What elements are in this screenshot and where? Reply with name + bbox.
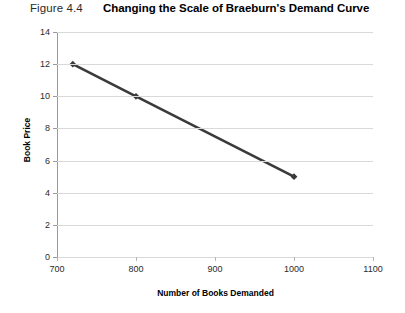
- y-tick-mark: [53, 225, 57, 226]
- x-tick-mark: [373, 257, 374, 261]
- y-axis-title: Book Price: [22, 95, 32, 185]
- y-tick-mark: [53, 161, 57, 162]
- y-tick-label: 0: [45, 252, 50, 262]
- x-tick-label: 1100: [363, 264, 382, 274]
- gridline-horizontal: [57, 32, 373, 33]
- figure-container: Figure 4.4 Changing the Scale of Braebur…: [0, 0, 405, 313]
- x-axis-title: Number of Books Demanded: [57, 288, 374, 298]
- gridline-horizontal: [57, 96, 373, 97]
- y-tick-mark: [53, 96, 57, 97]
- y-tick-label: 2: [45, 220, 50, 230]
- y-tick-label: 6: [45, 156, 50, 166]
- figure-header: Figure 4.4 Changing the Scale of Braebur…: [0, 2, 405, 20]
- x-tick-mark: [215, 257, 216, 261]
- gridline-horizontal: [57, 64, 373, 65]
- y-tick-label: 12: [40, 59, 50, 69]
- x-tick-label: 1000: [284, 264, 304, 274]
- gridline-horizontal: [57, 161, 373, 162]
- x-tick-mark: [294, 257, 295, 261]
- chart-title: Changing the Scale of Braeburn's Demand …: [103, 2, 369, 14]
- x-tick-label: 800: [128, 264, 143, 274]
- y-tick-mark: [53, 128, 57, 129]
- plot-area: 0246810121470080090010001100: [57, 32, 373, 257]
- x-tick-label: 700: [49, 264, 64, 274]
- gridline-horizontal: [57, 193, 373, 194]
- gridline-horizontal: [57, 225, 373, 226]
- y-tick-mark: [53, 32, 57, 33]
- y-tick-mark: [53, 64, 57, 65]
- x-tick-mark: [57, 257, 58, 261]
- y-tick-mark: [53, 193, 57, 194]
- y-tick-label: 10: [40, 91, 50, 101]
- y-tick-label: 8: [45, 123, 50, 133]
- gridline-horizontal: [57, 128, 373, 129]
- figure-number-label: Figure 4.4: [30, 2, 83, 14]
- y-tick-label: 14: [40, 27, 50, 37]
- x-tick-mark: [136, 257, 137, 261]
- y-tick-label: 4: [45, 188, 50, 198]
- x-tick-label: 900: [207, 264, 222, 274]
